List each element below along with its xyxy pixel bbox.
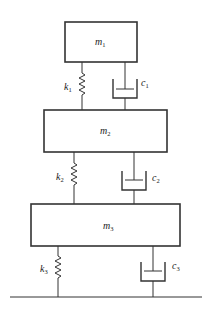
spring-mass-damper-diagram: m1 k1 c1 m2 k2 c2 m3 k3: [0, 0, 213, 312]
damper-c1: c1: [113, 62, 149, 110]
mass-m1: m1: [65, 22, 137, 62]
spring-k3: k3: [40, 246, 61, 297]
spring-k3-label: k3: [40, 263, 48, 275]
spring-k1-label: k1: [64, 81, 72, 93]
damper-c1-label: c1: [141, 77, 149, 89]
damper-c3: c3: [141, 246, 180, 297]
spring-k2: k2: [56, 152, 77, 204]
damper-c2: c2: [122, 152, 160, 204]
spring-k1: k1: [64, 62, 85, 110]
spring-k2-label: k2: [56, 171, 64, 183]
damper-c3-label: c3: [172, 260, 180, 272]
mass-m3: m3: [31, 204, 180, 246]
damper-c2-label: c2: [152, 172, 160, 184]
mass-m2: m2: [44, 110, 167, 152]
